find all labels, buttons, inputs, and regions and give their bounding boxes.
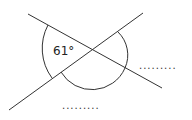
angle-label-61: 61° — [53, 44, 74, 58]
angle-arc-left — [42, 25, 52, 78]
answer-blank-bottom: ......... — [62, 101, 100, 111]
angle-arc-right — [118, 32, 128, 68]
line-2 — [9, 13, 143, 110]
answer-blank-right: ......... — [139, 61, 177, 71]
angle-arc-bottom — [61, 68, 125, 90]
